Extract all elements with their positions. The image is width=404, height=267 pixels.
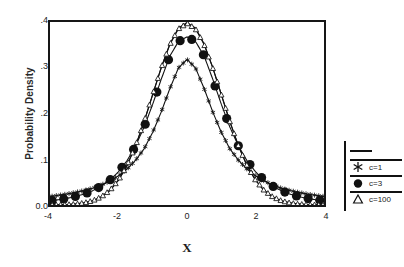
chart-canvas — [50, 22, 324, 205]
legend-label-1: c=1 — [369, 163, 382, 172]
x-tick-label-1: -2 — [102, 211, 132, 221]
x-tick-label-0: -4 — [33, 211, 63, 221]
legend-item-3: c=100 — [348, 191, 404, 207]
figure-container: Probability Density .4 .3 .2 .1 0.0 -4 -… — [0, 0, 404, 267]
y-tick-label-1: .1 — [8, 155, 48, 165]
legend-divider — [344, 141, 346, 211]
plain-line-marker — [350, 150, 372, 152]
legend-label-2: c=3 — [369, 179, 382, 188]
filled-circle-marker — [350, 175, 366, 191]
legend: c=1 c=3 c=100 — [348, 143, 404, 207]
open-triangle-marker — [350, 191, 366, 207]
plot-area — [48, 20, 326, 207]
y-tick-label-0: 0.0 — [8, 201, 48, 211]
x-axis-title: X — [48, 240, 326, 256]
legend-label-3: c=100 — [369, 195, 391, 204]
legend-item-1: c=1 — [348, 159, 404, 175]
x-tick-label-3: 2 — [241, 211, 271, 221]
asterisk-marker — [350, 159, 366, 175]
y-tick-label-4: .4 — [8, 15, 48, 25]
legend-item-0 — [348, 143, 404, 159]
y-tick-label-2: .2 — [8, 108, 48, 118]
x-tick-label-4: 4 — [311, 211, 341, 221]
x-tick-label-2: 0 — [172, 211, 202, 221]
legend-item-2: c=3 — [348, 175, 404, 191]
y-tick-label-3: .3 — [8, 61, 48, 71]
